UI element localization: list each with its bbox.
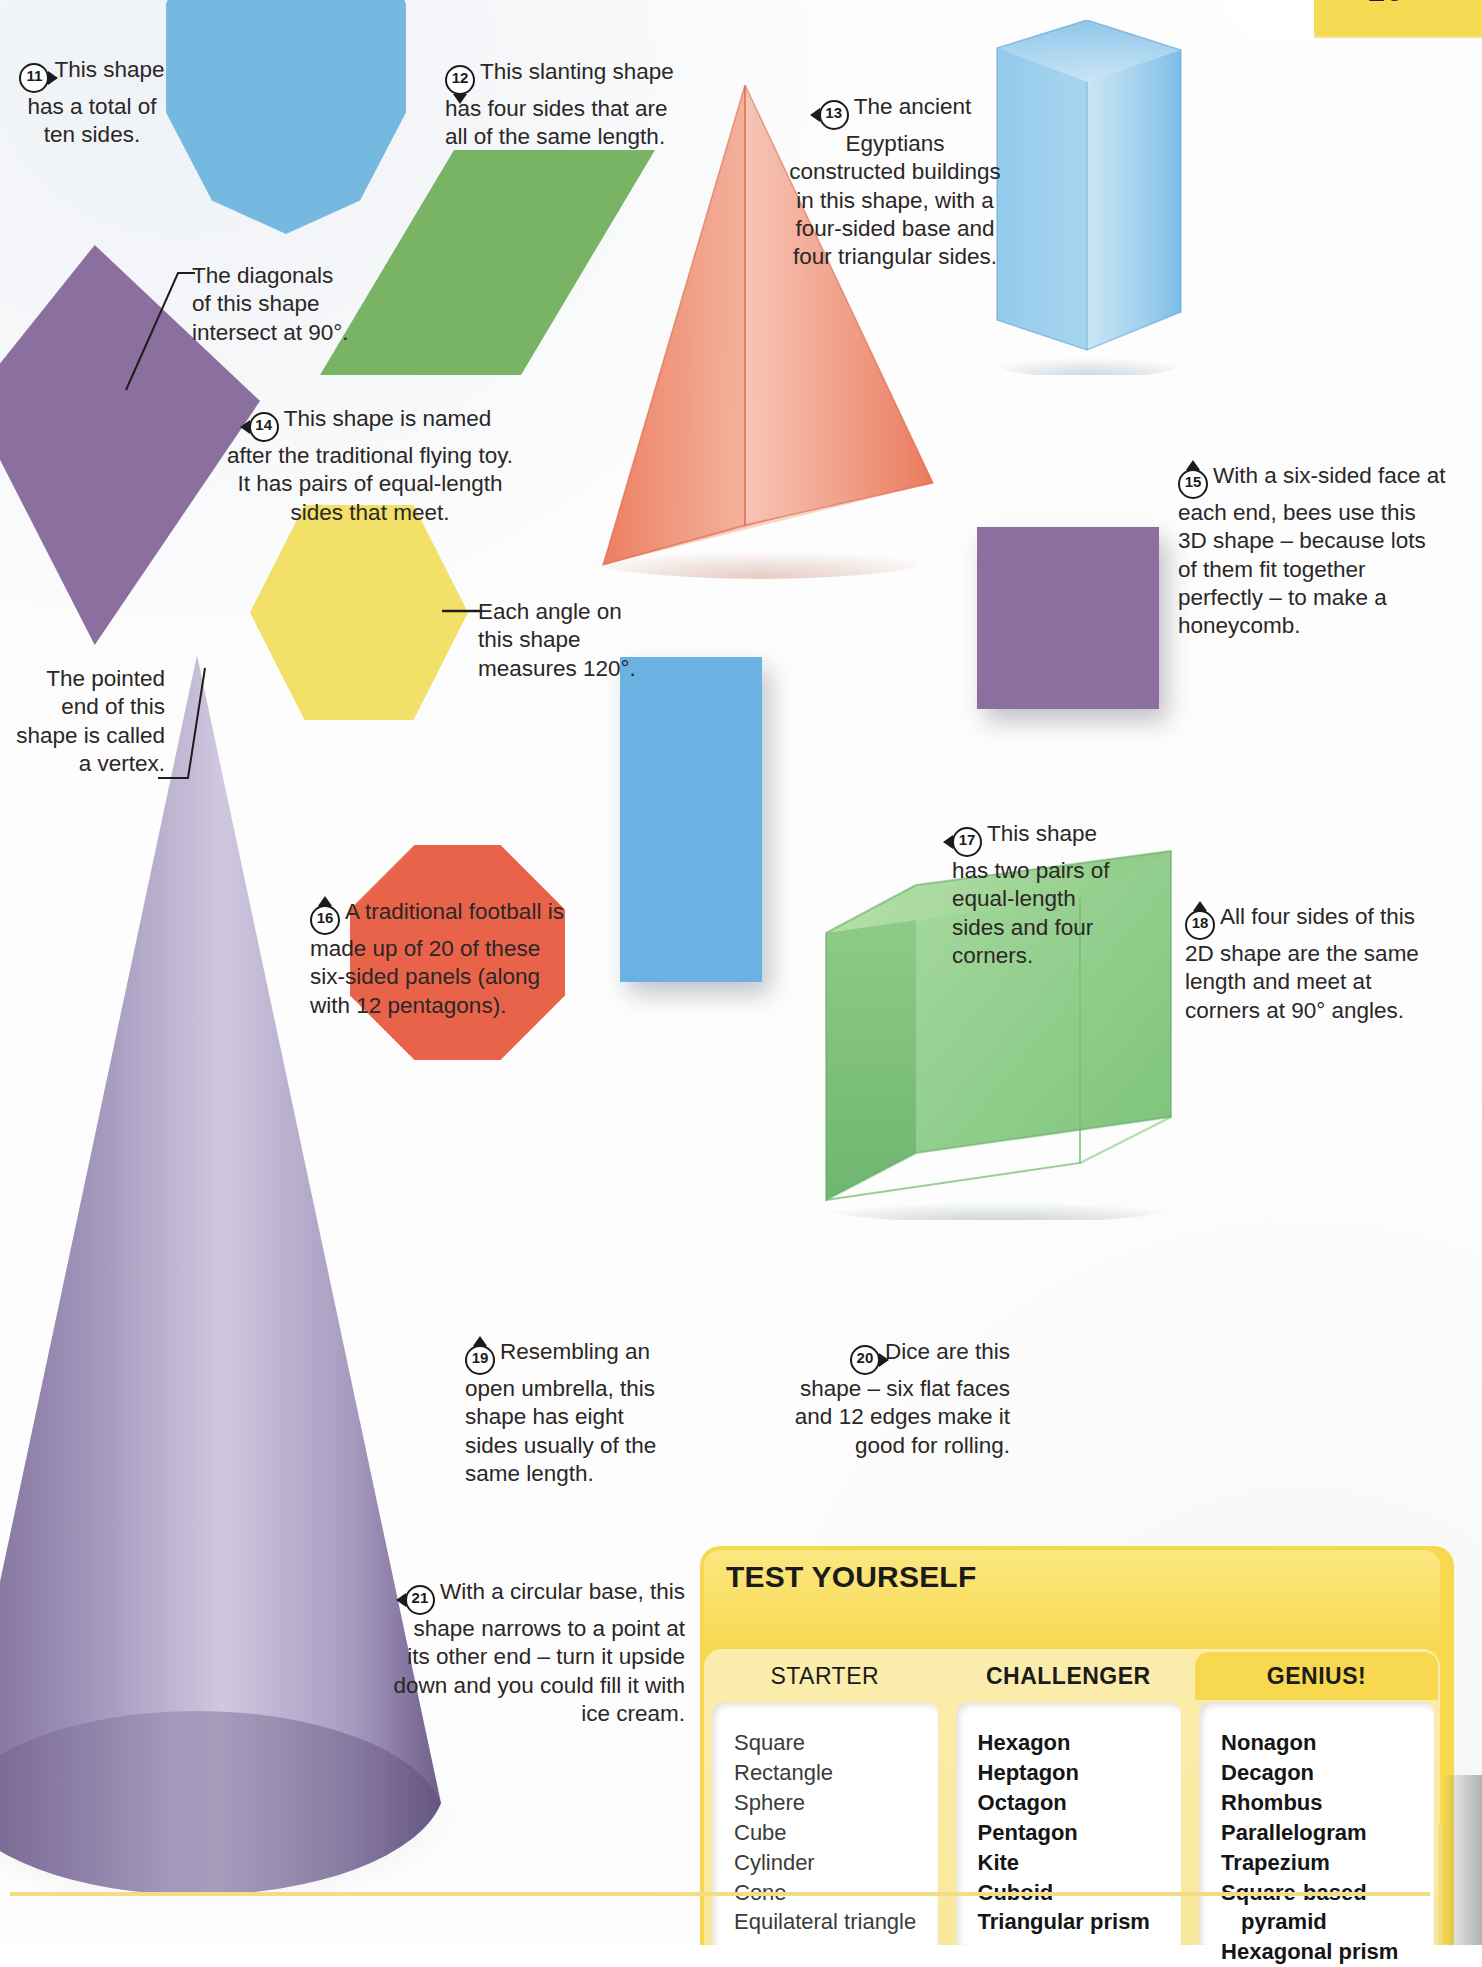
callout-badge-19: 19 xyxy=(465,1345,495,1375)
list-item: Sphere xyxy=(734,1788,938,1818)
page-number: 25 xyxy=(1314,0,1458,8)
list-item: Trapezium xyxy=(1221,1848,1434,1878)
callout-text-12: This slanting shape has four sides that … xyxy=(445,59,674,149)
annotation-vertex: The pointed end of this shape is called … xyxy=(10,665,165,778)
list-item: Hexagonal prism xyxy=(1221,1937,1434,1967)
column-heading-starter: STARTER xyxy=(708,1652,942,1700)
callout-14: 14This shape is named after the traditio… xyxy=(225,405,515,527)
test-yourself-title: TEST YOURSELF xyxy=(726,1560,976,1594)
column-heading-genius: GENIUS! xyxy=(1195,1652,1438,1700)
callout-11: 11This shape has a total of ten sides. xyxy=(12,56,172,150)
annotation-angle120: Each angle on this shape measures 120°. xyxy=(478,598,638,683)
shape-rectangle xyxy=(620,657,762,982)
list-item: Cube xyxy=(734,1818,938,1848)
callout-badge-12: 12 xyxy=(445,65,475,95)
list-item: pyramid xyxy=(1221,1907,1434,1937)
list-item: Rhombus xyxy=(1221,1788,1434,1818)
callout-12: 12This slanting shape has four sides tha… xyxy=(445,58,685,152)
column-list-challenger: Hexagon Heptagon Octagon Pentagon Kite C… xyxy=(956,1702,1182,1945)
callout-badge-15: 15 xyxy=(1178,469,1208,499)
callout-13: 13The ancient Egyptians constructed buil… xyxy=(785,93,1005,272)
list-item: Cylinder xyxy=(734,1848,938,1878)
column-heading-challenger: CHALLENGER xyxy=(952,1652,1186,1700)
test-yourself-columns: STARTER Square Rectangle Sphere Cube Cyl… xyxy=(708,1652,1438,1945)
list-item: Nonagon xyxy=(1221,1728,1434,1758)
list-item: Decagon xyxy=(1221,1758,1434,1788)
list-item: Hexagon xyxy=(978,1728,1182,1758)
list-item: Equilateral triangle xyxy=(734,1907,938,1937)
callout-badge-14: 14 xyxy=(249,412,279,442)
callout-badge-16: 16 xyxy=(310,905,340,935)
callout-text-15: With a six-sided face at each end, bees … xyxy=(1178,463,1446,638)
page-number-tab: 25 xyxy=(1314,0,1482,36)
page-edge-shadow xyxy=(1442,1775,1482,1945)
test-column-genius: GENIUS! Nonagon Decagon Rhombus Parallel… xyxy=(1195,1652,1438,1945)
test-yourself-panel: TEST YOURSELF STARTER Square Rectangle S… xyxy=(700,1546,1454,1945)
callout-17: 17This shape has two pairs of equal-leng… xyxy=(952,820,1112,970)
callout-21: 21With a circular base, this shape narro… xyxy=(385,1578,685,1728)
callout-text-21: With a circular base, this shape narrows… xyxy=(394,1579,685,1726)
callout-15: 15With a six-sided face at each end, bee… xyxy=(1178,462,1448,641)
test-column-challenger: CHALLENGER Hexagon Heptagon Octagon Pent… xyxy=(952,1652,1186,1945)
shape-square xyxy=(977,527,1159,709)
list-item: Parallelogram xyxy=(1221,1818,1434,1848)
callout-text-20: Dice are this shape – six flat faces and… xyxy=(795,1339,1010,1458)
callout-badge-21: 21 xyxy=(405,1585,435,1615)
callout-text-16: A traditional football is made up of 20 … xyxy=(310,899,564,1018)
list-item: Pentagon xyxy=(978,1818,1182,1848)
annotation-diagonals: The diagonals of this shape intersect at… xyxy=(192,262,352,347)
list-item: Kite xyxy=(978,1848,1182,1878)
callout-text-18: All four sides of this 2D shape are the … xyxy=(1185,904,1419,1023)
callout-19: 19Resembling an open umbrella, this shap… xyxy=(465,1338,680,1488)
list-item: Triangular prism xyxy=(978,1907,1182,1937)
callout-badge-11: 11 xyxy=(19,63,49,93)
column-list-starter: Square Rectangle Sphere Cube Cylinder Co… xyxy=(712,1702,938,1945)
list-item: Heptagon xyxy=(978,1758,1182,1788)
callout-badge-20: 20 xyxy=(850,1345,880,1375)
column-list-genius: Nonagon Decagon Rhombus Parallelogram Tr… xyxy=(1199,1702,1434,1945)
list-item: Octagon xyxy=(978,1788,1182,1818)
list-item: Rectangle xyxy=(734,1758,938,1788)
leader-line-vertex xyxy=(150,660,260,860)
callout-18: 18All four sides of this 2D shape are th… xyxy=(1185,903,1435,1025)
callout-16: 16A traditional football is made up of 2… xyxy=(310,898,575,1020)
callout-badge-13: 13 xyxy=(819,100,849,130)
shape-hexagonal-prism xyxy=(995,20,1183,375)
list-item: Square xyxy=(734,1728,938,1758)
page-tab-notch xyxy=(1224,0,1314,40)
test-column-starter: STARTER Square Rectangle Sphere Cube Cyl… xyxy=(708,1652,942,1945)
callout-badge-17: 17 xyxy=(952,827,982,857)
callout-20: 20Dice are this shape – six flat faces a… xyxy=(790,1338,1010,1460)
bottom-rule xyxy=(10,1892,1430,1896)
callout-badge-18: 18 xyxy=(1185,910,1215,940)
